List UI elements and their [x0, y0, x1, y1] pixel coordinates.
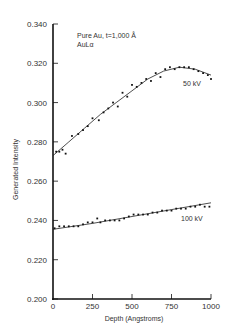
data-point	[100, 221, 102, 223]
data-point	[155, 72, 157, 74]
y-tick-label: 0.340	[27, 20, 48, 29]
data-point	[65, 153, 67, 155]
data-point	[210, 78, 212, 80]
data-point	[62, 149, 64, 151]
data-point	[58, 151, 60, 153]
data-point	[185, 208, 187, 210]
y-tick-label: 0.200	[27, 295, 48, 304]
data-point	[123, 218, 125, 220]
data-point	[131, 84, 133, 86]
data-point	[160, 76, 162, 78]
data-point	[171, 210, 173, 212]
data-point	[82, 223, 84, 225]
y-tick-label: 0.320	[27, 59, 48, 68]
data-point	[180, 208, 182, 210]
data-point	[87, 125, 89, 127]
data-point	[150, 80, 152, 82]
data-point	[71, 135, 73, 137]
data-point	[199, 204, 201, 206]
series-layer	[53, 66, 212, 229]
data-point	[156, 212, 158, 214]
data-point	[68, 225, 70, 227]
data-point	[179, 66, 181, 68]
data-point	[54, 227, 56, 229]
data-point	[96, 218, 98, 220]
data-point	[188, 66, 190, 68]
data-point	[77, 225, 79, 227]
x-tick-label: 250	[86, 302, 100, 311]
data-point	[126, 96, 128, 98]
data-point	[63, 225, 65, 227]
data-point	[183, 66, 185, 68]
y-tick-label: 0.260	[27, 177, 48, 186]
data-point	[55, 151, 57, 153]
data-point	[152, 212, 154, 214]
data-point	[122, 92, 124, 94]
axes: 0.2000.2200.2400.2600.2800.3000.3200.340…	[27, 20, 220, 311]
x-tick-label: 500	[125, 302, 139, 311]
annotation-text: AuLα	[77, 41, 94, 48]
x-tick-label: 0	[51, 302, 56, 311]
data-point	[103, 111, 105, 113]
data-point	[87, 221, 89, 223]
data-point	[209, 206, 211, 208]
data-point	[145, 78, 147, 80]
x-tick-label: 1000	[202, 302, 220, 311]
data-point	[73, 225, 75, 227]
data-point	[207, 74, 209, 76]
data-point	[82, 129, 84, 131]
data-point	[175, 208, 177, 210]
data-point	[92, 117, 94, 119]
series-label: 50 kV	[183, 80, 201, 87]
x-tick-label: 750	[165, 302, 179, 311]
data-point	[77, 133, 79, 135]
data-point	[137, 214, 139, 216]
data-point	[133, 214, 135, 216]
data-point	[128, 216, 130, 218]
data-point	[92, 221, 94, 223]
data-point	[190, 206, 192, 208]
data-point	[161, 210, 163, 212]
annotation-text: Pure Au, t=1,000 Å	[77, 31, 136, 39]
data-point	[112, 102, 114, 104]
y-tick-label: 0.220	[27, 256, 48, 265]
data-point	[174, 68, 176, 70]
series-label: 100 kV	[181, 215, 203, 222]
y-tick-label: 0.300	[27, 99, 48, 108]
data-point	[147, 214, 149, 216]
data-point	[204, 206, 206, 208]
data-point	[58, 225, 60, 227]
data-point	[114, 220, 116, 222]
data-point	[142, 214, 144, 216]
y-tick-label: 0.240	[27, 216, 48, 225]
data-point	[136, 86, 138, 88]
data-point	[109, 220, 111, 222]
data-point	[193, 68, 195, 70]
data-point	[141, 82, 143, 84]
x-axis-label: Depth (Angstroms)	[105, 315, 164, 323]
data-point	[117, 106, 119, 108]
data-point	[166, 210, 168, 212]
y-axis-label: Generated Intensity	[12, 138, 20, 200]
chart: 0.2000.2200.2400.2600.2800.3000.3200.340…	[0, 0, 233, 336]
data-point	[169, 66, 171, 68]
data-point	[197, 70, 199, 72]
data-point	[202, 72, 204, 74]
data-point	[107, 108, 109, 110]
data-point	[164, 68, 166, 70]
data-point	[118, 220, 120, 222]
y-tick-label: 0.280	[27, 138, 48, 147]
data-point	[194, 206, 196, 208]
data-point	[104, 220, 106, 222]
data-point	[98, 119, 100, 121]
